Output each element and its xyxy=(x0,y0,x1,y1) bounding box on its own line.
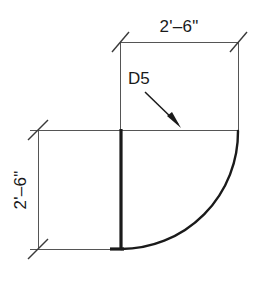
door-symbol-group xyxy=(110,129,238,250)
door-swing-arc xyxy=(121,131,238,249)
door-detail-drawing: 2'–6" 2'–6" D5 xyxy=(0,0,256,285)
left-dimension-label: 2'–6" xyxy=(11,170,30,209)
top-dimension-label: 2'–6" xyxy=(159,17,198,36)
door-tag-group xyxy=(145,92,181,128)
door-tag-arrowhead-icon xyxy=(167,112,181,128)
drawing-canvas: 2'–6" 2'–6" D5 xyxy=(0,0,256,285)
left-dimension-group xyxy=(28,120,121,259)
door-tag-label: D5 xyxy=(128,69,150,88)
